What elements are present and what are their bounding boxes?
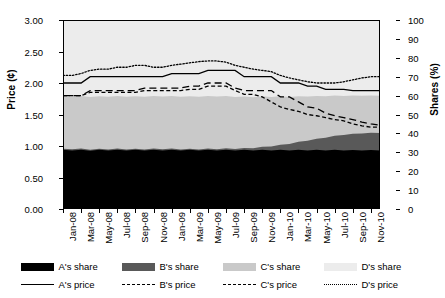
tick-mark (172, 209, 173, 213)
x-axis-tick-label: Mar-08 (85, 212, 96, 242)
legend-swatch-icon (122, 263, 155, 271)
x-axis-tick-label: Jul-10 (339, 212, 350, 238)
y-axis-left-tick-label: 0.00 (25, 204, 44, 215)
tick-mark (226, 209, 227, 213)
y-axis-right-tick-label: 10 (408, 185, 419, 196)
legend-line-icon (21, 281, 54, 289)
tick-mark (154, 209, 155, 213)
tick-mark (298, 209, 299, 213)
x-axis-tick-label: Jul-08 (121, 212, 132, 238)
chart-canvas (63, 20, 380, 209)
y-axis-right-tick-label: 40 (408, 128, 419, 139)
legend-item: A's share (21, 258, 122, 275)
legend-line-icon (122, 281, 155, 289)
x-axis-tick-label: Jan-09 (176, 212, 187, 241)
y-axis-right-tick-label: 60 (408, 90, 419, 101)
tick-mark (396, 115, 400, 116)
y-axis-right-tick-label: 80 (408, 52, 419, 63)
legend-item: D's price (324, 276, 425, 293)
x-axis-tick-label: Jul-09 (230, 212, 241, 238)
chart-legend: A's shareB's shareC's shareD's share A's… (0, 258, 445, 298)
legend-swatch-icon (223, 263, 256, 271)
tick-mark (396, 171, 400, 172)
y-axis-right-tick-label: 70 (408, 71, 419, 82)
legend-item: C's share (223, 258, 324, 275)
x-axis-tick-label: Nov-10 (375, 212, 386, 243)
y-axis-left-tick-label: 3.00 (25, 15, 44, 26)
tick-mark (190, 209, 191, 213)
legend-item: D's share (324, 258, 425, 275)
x-axis-tick-label: Nov-09 (266, 212, 277, 243)
x-axis-tick-label: Sep-08 (139, 212, 150, 243)
legend-line-icon (324, 281, 357, 289)
tick-mark (99, 209, 100, 213)
tick-mark (353, 209, 354, 213)
y-axis-right-tick-label: 90 (408, 33, 419, 44)
tick-mark (396, 152, 400, 153)
legend-swatch-icon (324, 263, 357, 271)
x-axis-tick-label: Mar-09 (194, 212, 205, 242)
area-band-a-s-share (63, 150, 380, 209)
legend-label: A's price (59, 279, 95, 290)
tick-mark (63, 209, 64, 213)
legend-item: C's price (223, 276, 324, 293)
tick-mark (396, 39, 400, 40)
x-axis-tick-label: Mar-10 (302, 212, 313, 242)
plot-area (63, 20, 380, 209)
tick-mark (117, 209, 118, 213)
tick-mark (81, 209, 82, 213)
legend-label: B's share (160, 261, 199, 272)
y-axis-right-tick-label: 30 (408, 147, 419, 158)
y-axis-left-tick-label: 2.00 (25, 78, 44, 89)
legend-item: A's price (21, 276, 122, 293)
tick-mark (396, 77, 400, 78)
tick-mark (335, 209, 336, 213)
tick-mark (396, 190, 400, 191)
tick-mark (371, 209, 372, 213)
chart-container: Price (¢) Shares (%) 0.000.501.001.502.0… (0, 0, 445, 298)
tick-mark (262, 209, 263, 213)
tick-mark (280, 209, 281, 213)
tick-mark (396, 133, 400, 134)
legend-label: A's share (59, 261, 98, 272)
tick-mark (396, 96, 400, 97)
y-axis-left-ticks: 0.000.501.001.502.002.503.00 (0, 0, 53, 298)
legend-label: C's price (261, 279, 298, 290)
y-axis-left-tick-label: 0.50 (25, 172, 44, 183)
legend-item: B's price (122, 276, 223, 293)
legend-line-icon (223, 281, 256, 289)
legend-label: D's share (362, 261, 402, 272)
legend-row-prices: A's priceB's priceC's priceD's price (0, 276, 445, 293)
x-axis-tick-label: May-10 (321, 212, 332, 244)
x-axis-tick-labels: Jan-08Mar-08May-08Jul-08Sep-08Nov-08Jan-… (63, 212, 380, 258)
legend-label: C's share (261, 261, 301, 272)
legend-swatch-icon (21, 263, 54, 271)
x-axis-tick-label: May-09 (212, 212, 223, 244)
legend-label: D's price (362, 279, 399, 290)
y-axis-right-tick-label: 50 (408, 109, 419, 120)
tick-mark (396, 20, 400, 21)
y-axis-right-tick-label: 20 (408, 166, 419, 177)
x-axis-tick-label: May-08 (103, 212, 114, 244)
x-axis-tick-label: Jan-10 (284, 212, 295, 241)
y-axis-right-tick-label: 0 (408, 204, 413, 215)
x-axis-tick-label: Jan-08 (67, 212, 78, 241)
tick-mark (317, 209, 318, 213)
tick-mark (396, 58, 400, 59)
tick-mark (135, 209, 136, 213)
y-axis-left-tick-label: 1.00 (25, 141, 44, 152)
x-axis-tick-label: Sep-10 (357, 212, 368, 243)
legend-item: B's share (122, 258, 223, 275)
tick-mark (244, 209, 245, 213)
legend-row-shares: A's shareB's shareC's shareD's share (0, 258, 445, 275)
tick-mark (396, 209, 400, 210)
legend-label: B's price (160, 279, 196, 290)
x-axis-tick-label: Nov-08 (158, 212, 169, 243)
y-axis-right-ticks: 0102030405060708090100 (396, 0, 444, 298)
y-axis-left-tick-label: 1.50 (25, 109, 44, 120)
tick-mark (208, 209, 209, 213)
y-axis-right-tick-label: 100 (408, 15, 424, 26)
y-axis-left-tick-label: 2.50 (25, 46, 44, 57)
x-axis-tick-label: Sep-09 (248, 212, 259, 243)
